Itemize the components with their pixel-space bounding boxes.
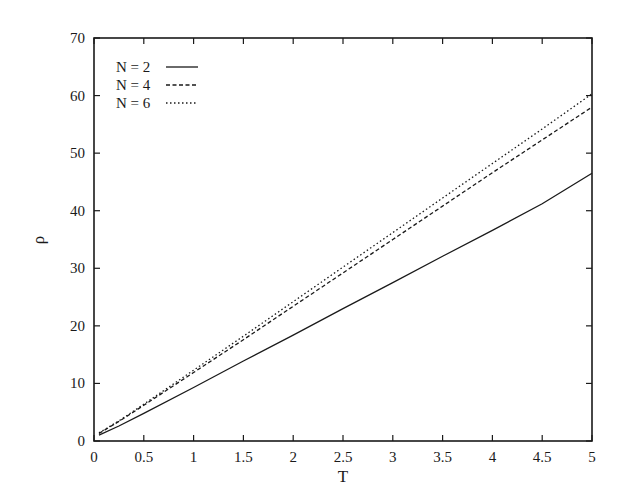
x-tick-label: 3.5: [433, 449, 452, 465]
x-tick-label: 2: [289, 449, 297, 465]
x-tick-label: 2.5: [334, 449, 353, 465]
y-tick-label: 50: [70, 145, 85, 161]
x-tick-label: 0.5: [134, 449, 153, 465]
y-tick-label: 0: [78, 433, 86, 449]
legend-label: N = 4: [116, 77, 151, 93]
plot-border: [94, 38, 592, 441]
legend-label: N = 6: [116, 95, 151, 111]
x-axis-label: T: [338, 467, 349, 486]
y-tick-label: 20: [70, 318, 85, 334]
x-tick-label: 1.5: [234, 449, 253, 465]
x-tick-label: 1: [190, 449, 198, 465]
plot-frame: [94, 38, 592, 441]
y-axis-label: ρ: [29, 236, 48, 244]
x-tick-label: 3: [389, 449, 397, 465]
x-tick-label: 4: [489, 449, 497, 465]
x-tick-label: 0: [90, 449, 98, 465]
y-tick-label: 30: [70, 260, 85, 276]
y-tick-label: 60: [70, 88, 85, 104]
x-tick-label: 5: [588, 449, 596, 465]
y-tick-label: 10: [70, 375, 85, 391]
y-tick-label: 40: [70, 203, 85, 219]
x-axis: 00.511.522.533.544.55: [90, 38, 596, 465]
legend: N = 2N = 4N = 6: [116, 59, 198, 111]
y-tick-label: 70: [70, 30, 85, 46]
series-line: [99, 94, 592, 433]
line-chart: 00.511.522.533.544.55 010203040506070 N …: [0, 0, 627, 504]
x-tick-label: 4.5: [533, 449, 552, 465]
series-line: [99, 173, 592, 435]
legend-label: N = 2: [116, 59, 150, 75]
data-series: [99, 94, 592, 435]
